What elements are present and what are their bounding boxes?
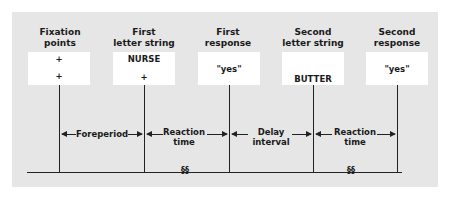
heading-first-response: Firstresponse [188,27,268,49]
interval-label-foreperiod: Foreperiod [76,129,128,139]
heading-first-letter-string: Firstletter string [104,27,184,49]
interval-label-reaction-time-1: Reactiontime [163,127,205,147]
arrowhead-right-icon [137,131,143,137]
time-axis [27,172,402,173]
event-line-second-response [397,85,398,173]
interval-label-reaction-time-2: Reactiontime [334,127,376,147]
arrowhead-right-icon [390,131,396,137]
arrowhead-right-icon [306,131,312,137]
fixation-plus-bottom: + [28,71,90,81]
heading-second-response: Secondresponse [357,27,437,49]
first-response-text: "yes" [198,64,260,74]
axis-break-icon: §§ [347,166,355,175]
arrowhead-left-icon [315,131,321,137]
first-letter-string-plus: + [113,72,175,82]
arrowhead-right-icon [222,131,228,137]
second-letter-string-word: BUTTER [282,74,344,84]
axis-break-icon: §§ [181,166,189,175]
heading-fixation-points: Fixationpoints [20,27,100,49]
arrowhead-left-icon [146,131,152,137]
arrowhead-left-icon [61,131,67,137]
event-line-second-letter-string [313,85,314,173]
event-line-first-letter-string [144,85,145,173]
arrowhead-left-icon [231,131,237,137]
fixation-plus-top: + [28,54,90,64]
event-line-first-response [229,85,230,173]
first-letter-string-word: NURSE [113,54,175,64]
interval-label-delay-interval: Delayinterval [250,127,292,147]
second-response-text: "yes" [366,64,428,74]
event-line-fixation [59,85,60,173]
heading-second-letter-string: Secondletter string [273,27,353,49]
